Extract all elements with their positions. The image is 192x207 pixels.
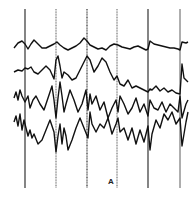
eeg-trace-figure: A	[0, 0, 192, 207]
channel-2-trace	[14, 56, 188, 94]
panel-label: A	[108, 177, 114, 186]
trace-plot	[0, 0, 192, 207]
channel-4-trace	[14, 112, 188, 152]
channel-3-trace	[14, 82, 188, 118]
channel-1-trace	[14, 38, 188, 50]
signal-traces	[14, 38, 188, 152]
